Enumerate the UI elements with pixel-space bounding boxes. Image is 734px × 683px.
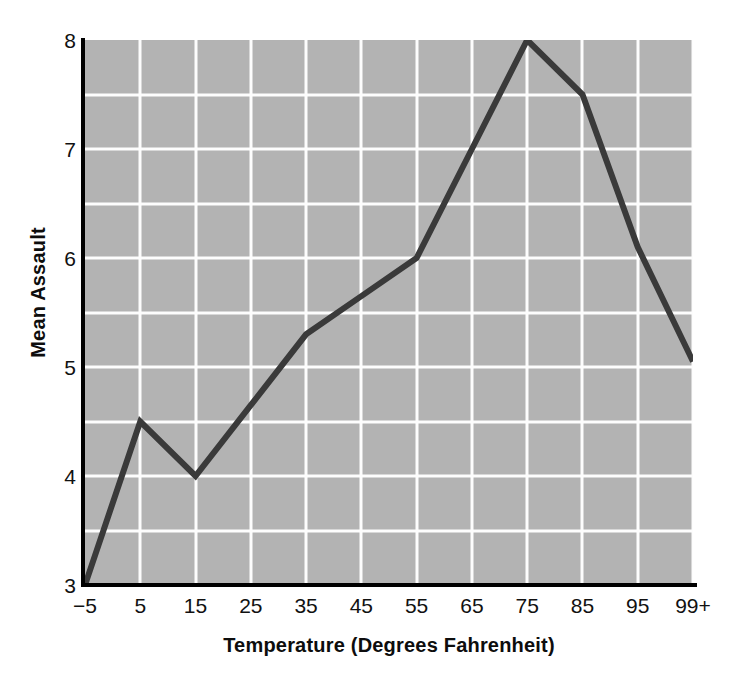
y-tick-label: 6: [40, 248, 85, 269]
y-tick-label: 8: [40, 30, 85, 51]
y-tick-label: 3: [40, 575, 85, 596]
x-tick-label: 85: [571, 595, 594, 616]
x-axis-tick-labels: −5515253545556575859599+: [85, 595, 693, 627]
x-tick-label: 55: [405, 595, 428, 616]
y-axis-tick-labels: 345678: [40, 40, 85, 585]
x-tick-label: −5: [73, 595, 97, 616]
x-tick-label: 95: [626, 595, 649, 616]
y-axis-line: [81, 38, 85, 587]
mean-assault-polyline: [85, 40, 693, 585]
x-tick-label: 65: [460, 595, 483, 616]
data-series-line: [85, 40, 693, 585]
x-axis-title: Temperature (Degrees Fahrenheit): [85, 634, 693, 657]
x-tick-label: 35: [294, 595, 317, 616]
x-tick-label: 99+: [675, 595, 711, 616]
y-tick-label: 7: [40, 139, 85, 160]
x-tick-label: 5: [134, 595, 146, 616]
y-tick-label: 4: [40, 466, 85, 487]
x-axis-line: [81, 583, 697, 587]
x-tick-label: 15: [184, 595, 207, 616]
line-chart-figure: Mean Assault 345678 −5515253545556575859…: [0, 0, 734, 683]
x-tick-label: 75: [515, 595, 538, 616]
x-tick-label: 45: [350, 595, 373, 616]
plot-area: [85, 40, 693, 585]
y-tick-label: 5: [40, 357, 85, 378]
x-tick-label: 25: [239, 595, 262, 616]
